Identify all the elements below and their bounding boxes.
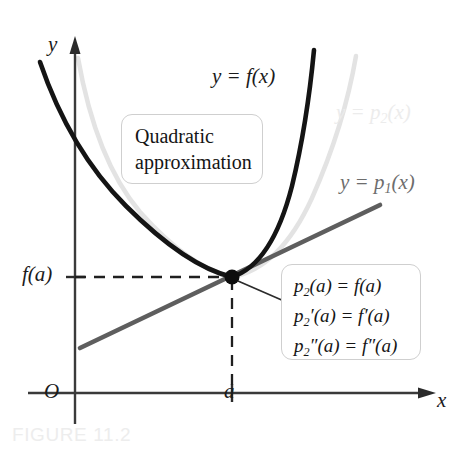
condition-1-rhs: f′(a) <box>358 305 390 326</box>
condition-equation-2: p2″(a) = f″(a) <box>294 332 420 362</box>
curve-label-p1-name: p <box>374 170 385 194</box>
curve-label-p1-arg: (x) <box>391 170 414 194</box>
condition-equation-1: p2′(a) = f′(a) <box>294 302 420 332</box>
curve-label-p1: y = p1(x) <box>340 172 415 196</box>
quadratic-approximation-callout: Quadratic approximation <box>121 114 263 184</box>
curve-label-p2: y = p2(x) <box>336 102 411 126</box>
x-axis-label: x <box>437 390 446 411</box>
y-axis-arrowhead <box>70 36 81 54</box>
curve-label-f-name: f(x) <box>246 64 275 88</box>
condition-0-rhs: f(a) <box>354 275 381 296</box>
matching-conditions-callout: p2(a) = f(a) p2′(a) = f′(a) p2″(a) = f″(… <box>281 264 421 360</box>
y-axis-tick-label-fa: f(a) <box>22 264 52 285</box>
curve-label-p2-arg: (x) <box>387 100 410 124</box>
origin-label: O <box>44 381 59 402</box>
quadratic-callout-line-2: approximation <box>135 150 262 176</box>
figure-caption: FIGURE 11.2 <box>12 424 131 446</box>
curve-label-f: y = f(x) <box>212 66 275 87</box>
condition-2-lhs-base: p <box>294 335 304 356</box>
x-axis-arrowhead <box>418 388 436 399</box>
curve-label-p2-name: p <box>370 100 381 124</box>
condition-1-lhs-base: p <box>294 305 304 326</box>
figure-container: y x O f(a) a y = f(x) y = p2(x) y = p1(x… <box>0 0 464 453</box>
condition-2-rhs: f″(a) <box>362 335 397 356</box>
condition-2-operator: = <box>344 335 357 356</box>
condition-0-lhs-base: p <box>294 275 304 296</box>
condition-equation-0: p2(a) = f(a) <box>294 272 420 302</box>
tangency-point-marker <box>225 270 240 285</box>
x-axis-tick-label-a: a <box>224 381 235 402</box>
condition-0-lhs-rest: (a) <box>310 275 332 296</box>
condition-0-operator: = <box>336 275 349 296</box>
condition-2-lhs-rest: ″(a) <box>310 335 340 356</box>
curve-label-p1-y: y <box>340 170 349 194</box>
curve-label-p2-y: y <box>336 100 345 124</box>
curve-label-p2-eq: = <box>351 100 365 124</box>
curve-label-f-eq: = <box>227 64 241 88</box>
quadratic-callout-line-1: Quadratic <box>135 124 262 150</box>
condition-1-operator: = <box>341 305 354 326</box>
condition-1-lhs-rest: ′(a) <box>310 305 336 326</box>
curve-label-f-y: y <box>212 64 221 88</box>
curve-label-p1-eq: = <box>355 170 369 194</box>
y-axis-label: y <box>48 34 57 55</box>
